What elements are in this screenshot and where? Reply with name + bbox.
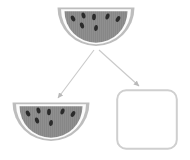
diagram-canvas — [0, 0, 190, 160]
node-source-watermelon[interactable] — [56, 4, 136, 52]
watermelon-slice-icon — [11, 99, 91, 147]
edge-source-to-left — [58, 50, 94, 98]
empty-box-icon — [116, 89, 178, 150]
node-result-left-watermelon[interactable] — [11, 99, 91, 147]
node-result-right-placeholder[interactable] — [116, 89, 178, 150]
watermelon-slice-icon — [56, 4, 136, 52]
edge-source-to-right — [99, 50, 139, 86]
